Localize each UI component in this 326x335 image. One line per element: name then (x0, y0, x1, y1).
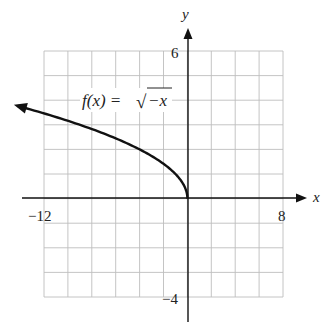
x-tick-label-8: 8 (278, 208, 286, 224)
y-tick-label-6: 6 (171, 45, 179, 61)
x-axis-arrow-icon (296, 194, 307, 203)
y-axis-arrow-icon (184, 28, 193, 39)
curve-arrow-left-icon (14, 103, 28, 114)
function-graph: x y 6 −4 −12 8 f(x) = √ −x (0, 0, 326, 335)
function-label: f(x) = √ −x (80, 88, 172, 112)
y-tick-label-neg4: −4 (162, 291, 178, 307)
function-curve (14, 103, 188, 199)
radical-sign: √ (136, 91, 147, 112)
x-tick-label-neg12: −12 (28, 208, 51, 224)
curve-path (18, 106, 188, 199)
function-label-radicand: −x (148, 91, 167, 110)
axes (22, 28, 307, 322)
function-label-lhs: f(x) = (82, 91, 121, 110)
y-axis-label: y (180, 6, 189, 22)
x-axis-label: x (312, 189, 320, 205)
